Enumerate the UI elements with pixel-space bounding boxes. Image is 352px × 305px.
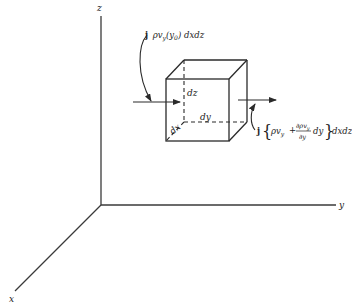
dx-label: dx xyxy=(168,122,183,137)
dz-label: dz xyxy=(187,88,198,98)
outflow-j: j xyxy=(256,126,260,136)
inflow-label: j ρvy(y0) dxdz xyxy=(144,30,205,42)
control-volume-diagram: z y x dz dy dx j ρvy(y0) dxdz j xyxy=(0,0,352,305)
dy-label: dy xyxy=(200,112,212,122)
z-axis-label: z xyxy=(96,3,102,13)
cube-edge xyxy=(166,60,184,79)
cube-edge xyxy=(229,60,247,79)
cube-edge xyxy=(229,122,247,141)
outflow-leader-curve xyxy=(251,104,255,130)
outflow-rho-v: ρvy xyxy=(270,126,285,138)
outflow-dxdz: dxdz xyxy=(332,126,352,136)
outflow-dy: dy xyxy=(313,126,323,136)
inflow-leader-curve xyxy=(140,35,151,101)
outflow-label: j { ρvy + ∂ρvy ∂y dy } dxdz xyxy=(256,122,352,141)
outflow-frac-num: ∂ρvy xyxy=(296,122,310,132)
x-axis xyxy=(15,205,101,291)
differential-cube: dz dy dx xyxy=(166,60,247,141)
coordinate-axes: z y x xyxy=(9,3,345,304)
x-axis-label: x xyxy=(9,294,14,304)
y-axis-label: y xyxy=(338,200,345,210)
outflow-frac-den: ∂y xyxy=(299,133,306,141)
outflow-flux: j { ρvy + ∂ρvy ∂y dy } dxdz xyxy=(238,100,352,141)
